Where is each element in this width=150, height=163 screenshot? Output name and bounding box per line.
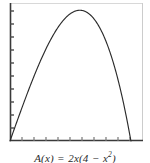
plot-background	[10, 3, 143, 141]
plot-area	[0, 0, 150, 147]
caption-coefficient: 2x(4	[68, 152, 88, 163]
figure-container: A(x) = 2x(4 − x2)	[0, 0, 150, 163]
caption-equals: =	[57, 152, 65, 163]
figure-caption: A(x) = 2x(4 − x2)	[0, 148, 150, 163]
plot-svg	[0, 0, 150, 147]
caption-close-paren: )	[112, 152, 116, 163]
caption-minus-sign: −	[92, 152, 100, 163]
caption-function-name: A(x)	[34, 152, 54, 163]
